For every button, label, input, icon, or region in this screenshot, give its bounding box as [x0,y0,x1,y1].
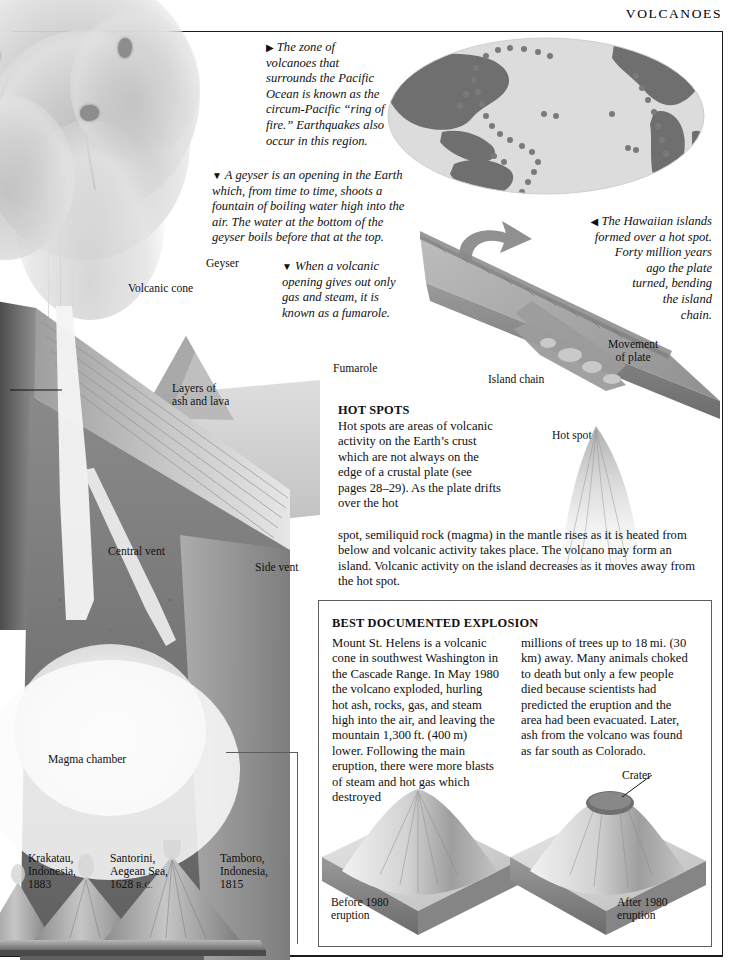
hot-spots-wide-paragraph: spot, semiliquid rock (magma) in the man… [338,528,704,590]
callout-hawaii-line-2: formed over a hot spot. [595,230,712,244]
label-before-eruption: Before 1980 eruption [331,896,389,922]
after-line1: After 1980 [617,896,668,909]
encyclopedia-page: VOLCANOES [0,0,734,970]
callout-hawaii-line-5: turned, bending [632,276,712,290]
callout-hawaii-line-1: The Hawaiian islands [601,214,712,228]
callout-fumarole-text: When a volcanic opening gives out only g… [282,259,396,320]
eruption-era: B.C. [136,881,153,890]
label-layers-line2: ash and lava [172,395,229,408]
label-side-vent: Side vent [255,561,298,574]
label-island-chain: Island chain [488,373,544,386]
page-border-right [722,31,723,956]
before-line2: eruption [331,909,370,922]
eruption-label-santorini: Santorini, Aegean Sea, 1628 B.C. [110,852,168,892]
eruption-place: Aegean Sea, [110,865,168,878]
eruption-place: Indonesia, [28,865,76,878]
eruption-year: 1883 [28,878,51,891]
callout-ring-of-fire: ▶ The zone of volcanoes that surrounds t… [266,40,388,149]
eruption-place: Indonesia, [220,865,268,878]
callout-hawaii: ◀ The Hawaiian islands formed over a hot… [534,214,712,323]
eruption-name: Krakatau, [28,852,73,865]
triangle-left-icon: ◀ [591,216,599,227]
callout-geyser: ▼ A geyser is an opening in the Earth wh… [212,168,412,246]
eruption-label-tamboro: Tamboro, Indonesia, 1815 [220,852,268,891]
page-title: VOLCANOES [626,6,722,22]
label-magma-chamber: Magma chamber [48,753,126,766]
eruption-year: 1815 [220,878,243,891]
label-layers-line1: Layers of [172,382,216,395]
explosion-box-heading: BEST DOCUMENTED EXPLOSION [332,616,632,631]
hot-spots-heading: HOT SPOTS [338,403,518,418]
triangle-right-icon: ▶ [266,42,274,53]
callout-hawaii-line-6: the island [663,292,712,306]
label-volcanic-cone: Volcanic cone [128,282,193,295]
eruption-name: Tamboro, [220,852,265,865]
explosion-box-heading-text: BEST DOCUMENTED EXPLOSION [332,616,539,630]
callout-geyser-text: A geyser is an opening in the Earth whic… [212,168,404,244]
triangle-down-icon: ▼ [282,261,292,272]
label-geyser: Geyser [206,257,239,270]
callout-ring-of-fire-text: The zone of volcanoes that surrounds the… [266,40,384,148]
hot-spots-heading-text: HOT SPOTS [338,403,409,417]
eruption-year: 1628 [110,878,133,891]
callout-fumarole: ▼ When a volcanic opening gives out only… [282,259,410,321]
ring-of-fire-globe-map [386,36,706,196]
eruption-label-krakatau: Krakatau, Indonesia, 1883 [28,852,76,891]
callout-hawaii-line-3: Forty million years [615,245,712,259]
label-movement-of-plate: Movement of plate [608,338,658,364]
label-fumarole: Fumarole [333,362,377,375]
inset-frame-top-rule [226,752,298,753]
label-central-vent: Central vent [108,545,165,558]
eruption-name: Santorini, [110,852,155,865]
after-line2: eruption [617,909,656,922]
label-layers-of-ash-and-lava: Layers of ash and lava [172,382,229,408]
callout-hawaii-line-7: chain. [681,308,712,322]
label-crater: Crater [622,769,651,782]
callout-hawaii-line-4: ago the plate [646,261,712,275]
movement-line2: of plate [616,351,651,364]
hot-spots-narrow-paragraph: Hot spots are areas of volcanic activity… [338,419,502,511]
explosion-box-column-right: millions of trees up to 18 mi. (30 km) a… [521,636,693,759]
mount-st-helens-blocks [322,775,712,950]
before-line1: Before 1980 [331,896,389,909]
label-after-eruption: After 1980 eruption [617,896,668,922]
movement-line1: Movement [608,338,658,351]
triangle-down-icon: ▼ [212,170,222,181]
